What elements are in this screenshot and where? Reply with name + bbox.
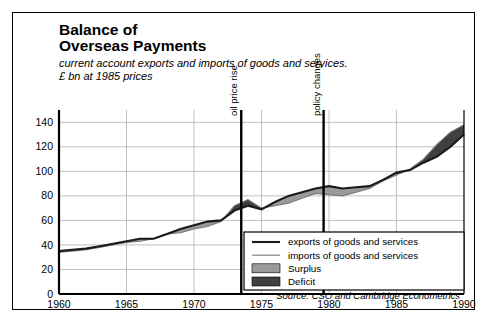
chart-canvas: 0204060801001201401960196519701975198019… — [13, 13, 476, 311]
x-axis-tick-label: 1970 — [182, 298, 206, 310]
legend-label: imports of goods and services — [288, 250, 418, 261]
legend-swatch-surplus — [252, 264, 280, 273]
source-note: Source: CSO and Cambridge Econometrics — [276, 290, 460, 301]
legend-swatch-deficit — [252, 277, 280, 286]
y-axis-tick-label: 120 — [35, 140, 53, 152]
deficit-band — [397, 125, 465, 175]
y-axis-tick-label: 60 — [41, 214, 53, 226]
y-axis-tick-label: 80 — [41, 189, 53, 201]
x-axis-tick-label: 1975 — [250, 298, 274, 310]
x-axis-tick-label: 1965 — [115, 298, 139, 310]
x-axis-tick-label: 1960 — [47, 298, 71, 310]
annotation-label: policy changes — [311, 53, 322, 116]
legend-label: Deficit — [288, 276, 315, 287]
y-axis-tick-label: 20 — [41, 263, 53, 275]
annotation-label: oil price rise — [228, 65, 239, 116]
balance-of-payments-chart: 0204060801001201401960196519701975198019… — [13, 13, 476, 311]
legend-label: exports of goods and services — [288, 236, 418, 247]
legend-label: Surplus — [288, 263, 321, 274]
surplus-band — [262, 169, 411, 210]
y-axis-tick-label: 40 — [41, 239, 53, 251]
y-axis-tick-label: 140 — [35, 116, 53, 128]
chart-card: Balance of Overseas Payments current acc… — [12, 12, 475, 310]
y-axis-tick-label: 100 — [35, 165, 53, 177]
deficit-band — [221, 200, 275, 222]
